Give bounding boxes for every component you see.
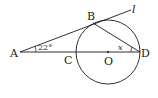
label-C: C — [64, 54, 72, 67]
label-D: D — [141, 47, 150, 60]
geometry-diagram: A B C O D l 22° x — [0, 0, 158, 98]
label-O: O — [104, 55, 113, 68]
angle-label-A: 22° — [38, 43, 52, 52]
label-A: A — [9, 47, 19, 60]
angle-arc-D — [131, 47, 132, 52]
label-line-l: l — [132, 3, 136, 16]
angle-arc-A — [35, 46, 36, 52]
angle-label-D: x — [118, 43, 123, 52]
label-B: B — [87, 10, 95, 23]
tangent-line-l — [20, 10, 131, 52]
segment-BD — [93, 23, 140, 52]
center-point-O — [107, 51, 109, 53]
